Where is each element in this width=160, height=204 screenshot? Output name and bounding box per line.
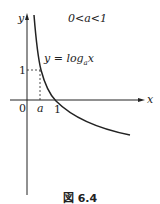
function-label-var: x <box>88 52 94 65</box>
origin-label: 0 <box>19 103 26 114</box>
function-label-main: y = log <box>44 52 84 65</box>
figure-caption: 図 6.4 <box>0 189 160 204</box>
x-axis-label: x <box>147 94 153 105</box>
y-axis-arrow-icon <box>25 13 29 20</box>
function-label: y = logax <box>44 53 94 67</box>
tick-1-y-label: 1 <box>19 65 26 76</box>
y-axis-label: y <box>18 13 24 24</box>
x-axis-arrow-icon <box>138 98 145 102</box>
condition-label: 0<a<1 <box>68 13 107 24</box>
log-curve <box>34 15 130 135</box>
tick-a-label: a <box>37 103 44 114</box>
tick-1-x-label: 1 <box>54 104 61 115</box>
